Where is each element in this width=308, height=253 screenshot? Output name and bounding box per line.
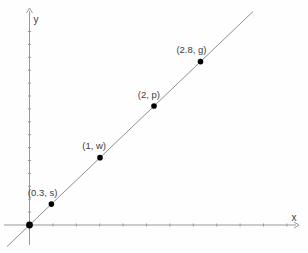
data-point [97, 155, 103, 161]
point-label: (2.8, g) [176, 44, 206, 55]
data-point [49, 201, 55, 207]
plot-line [7, 12, 253, 247]
point-label: (0.3, s) [28, 187, 58, 198]
axis-ticks [28, 32, 287, 227]
origin-point [26, 222, 33, 229]
graph-figure: (0.3, s)(1, w)(2, p)(2.8, g) y x [0, 0, 308, 253]
point-label: (1, w) [82, 140, 106, 151]
y-axis-label: y [34, 14, 39, 25]
data-point [198, 59, 204, 65]
data-point [151, 103, 157, 109]
point-labels: (0.3, s)(1, w)(2, p)(2.8, g) [28, 44, 207, 197]
axes [4, 8, 299, 245]
graphed-line [7, 12, 253, 247]
point-label: (2, p) [138, 89, 160, 100]
graph-svg: (0.3, s)(1, w)(2, p)(2.8, g) y x [0, 0, 308, 253]
x-axis-label: x [292, 212, 297, 223]
